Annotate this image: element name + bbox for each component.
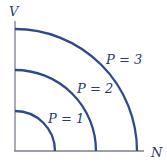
curve-label-p1: P = 1 bbox=[47, 111, 84, 126]
curve-label-p2: P = 2 bbox=[76, 81, 113, 96]
x-axis-label: N bbox=[150, 145, 163, 160]
curve-label-p3: P = 3 bbox=[105, 52, 142, 67]
y-axis-label: V bbox=[9, 4, 20, 19]
curve-p3 bbox=[15, 29, 137, 151]
isoquant-diagram: V N P = 1 P = 2 P = 3 bbox=[0, 0, 167, 162]
